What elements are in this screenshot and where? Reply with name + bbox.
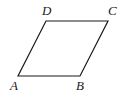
- vertex-label-b: B: [76, 78, 84, 93]
- vertex-label-c: C: [108, 3, 117, 18]
- vertex-label-a: A: [9, 78, 18, 93]
- parallelogram-abcd: [18, 21, 108, 76]
- vertex-label-d: D: [41, 3, 52, 18]
- parallelogram-diagram: D C A B: [0, 0, 121, 94]
